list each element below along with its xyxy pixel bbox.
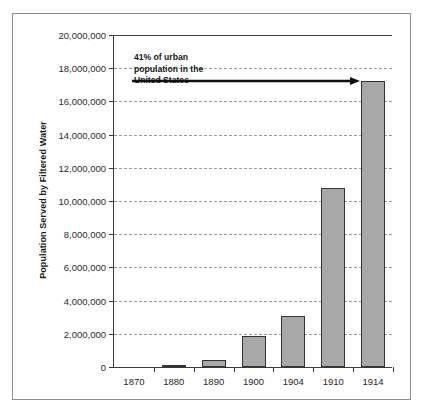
annotation-line: population in the: [134, 64, 244, 76]
x-tick-label: 1900: [243, 376, 264, 387]
y-tick-label: 14,000,000: [58, 129, 106, 140]
annotation-line: 41% of urban: [134, 52, 244, 64]
y-axis-title: Population Served by Filtered Water: [38, 85, 48, 315]
y-tick-mark: [109, 334, 114, 335]
y-gridline: [114, 334, 392, 335]
y-gridline: [114, 35, 392, 36]
y-tick-mark: [109, 301, 114, 302]
bar: [202, 360, 226, 367]
y-tick-label: 8,000,000: [64, 229, 106, 240]
y-gridline: [114, 367, 392, 368]
y-tick-label: 18,000,000: [58, 63, 106, 74]
x-tick-label: 1880: [163, 376, 184, 387]
x-tick-mark: [353, 367, 354, 372]
y-tick-label: 20,000,000: [58, 30, 106, 41]
y-gridline: [114, 135, 392, 136]
y-tick-label: 16,000,000: [58, 96, 106, 107]
x-tick-label: 1914: [362, 376, 383, 387]
x-tick-label: 1910: [323, 376, 344, 387]
y-gridline: [114, 267, 392, 268]
y-tick-label: 10,000,000: [58, 196, 106, 207]
y-tick-label: 4,000,000: [64, 295, 106, 306]
bar: [321, 188, 345, 367]
x-tick-mark: [273, 367, 274, 372]
y-gridline: [114, 168, 392, 169]
y-tick-mark: [109, 135, 114, 136]
y-tick-label: 6,000,000: [64, 262, 106, 273]
y-tick-mark: [109, 68, 114, 69]
x-tick-label: 1870: [123, 376, 144, 387]
y-gridline: [114, 301, 392, 302]
y-tick-label: 12,000,000: [58, 162, 106, 173]
y-gridline: [114, 201, 392, 202]
x-tick-mark: [313, 367, 314, 372]
annotation-arrow-icon: [132, 76, 360, 88]
bar: [162, 365, 186, 367]
y-gridline: [114, 234, 392, 235]
y-tick-label: 2,000,000: [64, 328, 106, 339]
x-tick-label: 1890: [203, 376, 224, 387]
y-tick-mark: [109, 367, 114, 368]
y-tick-label: 0: [101, 362, 106, 373]
y-tick-mark: [109, 267, 114, 268]
bar: [242, 336, 266, 367]
bar: [281, 316, 305, 367]
bar: [361, 81, 385, 367]
x-tick-mark: [194, 367, 195, 372]
y-tick-mark: [109, 234, 114, 235]
x-tick-mark: [234, 367, 235, 372]
y-gridline: [114, 101, 392, 102]
chart-figure: Population Served by Filtered Water 20,0…: [0, 0, 424, 419]
y-tick-mark: [109, 35, 114, 36]
x-tick-mark: [154, 367, 155, 372]
x-tick-label: 1904: [283, 376, 304, 387]
x-tick-mark: [393, 367, 394, 372]
y-tick-mark: [109, 201, 114, 202]
y-tick-mark: [109, 101, 114, 102]
y-tick-mark: [109, 168, 114, 169]
